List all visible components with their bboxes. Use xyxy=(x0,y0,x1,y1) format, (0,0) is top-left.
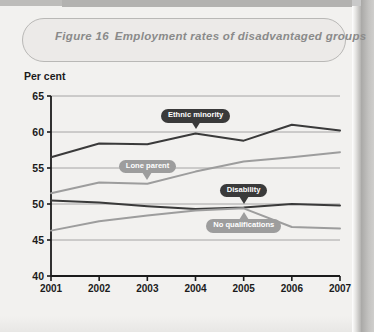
callout-pointer xyxy=(142,172,152,180)
figure-number: Figure 16 xyxy=(55,30,109,42)
callout-pointer xyxy=(239,212,249,220)
x-axis-tick-label: 2003 xyxy=(127,283,167,294)
callout-pointer xyxy=(191,121,201,129)
y-axis-tick-label: 60 xyxy=(22,126,44,138)
x-axis-tick-label: 2002 xyxy=(79,283,119,294)
figure-caption: Figure 16Employment rates of disadvantag… xyxy=(55,30,366,42)
x-axis-tick-label: 2007 xyxy=(320,283,360,294)
y-axis-tick-label: 40 xyxy=(22,270,44,282)
series-callout-no-qualifications: No qualifications xyxy=(206,219,281,232)
y-axis-tick-label: 55 xyxy=(22,162,44,174)
plot-area: Ethnic minorityLone parentDisabilityNo q… xyxy=(22,88,352,303)
y-axis-tick-label: 45 xyxy=(22,234,44,246)
y-axis-tick-label: 50 xyxy=(22,198,44,210)
x-axis-tick-label: 2001 xyxy=(31,283,71,294)
x-axis-tick-label: 2005 xyxy=(224,283,264,294)
figure-title-text: Employment rates of disadvantaged groups xyxy=(115,30,367,42)
page-outer-gutter xyxy=(361,0,374,332)
x-axis-tick-label: 2004 xyxy=(176,283,216,294)
page-top-strip-inner xyxy=(62,0,352,7)
figure-screenshot: Figure 16Employment rates of disadvantag… xyxy=(0,0,374,332)
y-axis-unit-label: Per cent xyxy=(24,70,65,82)
y-axis-tick-label: 65 xyxy=(22,90,44,102)
callout-pointer xyxy=(239,196,249,204)
x-axis-tick-label: 2006 xyxy=(272,283,312,294)
chart: Per cent Ethnic minorityLone parentDisab… xyxy=(22,64,352,304)
page-bottom-fade xyxy=(0,316,352,332)
